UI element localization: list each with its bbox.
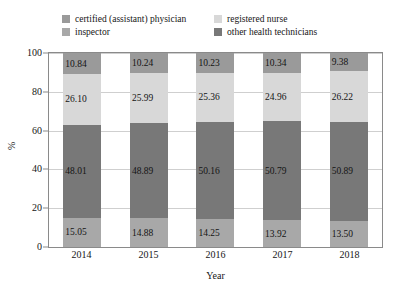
bar-segment-value-label: 10.84 (63, 59, 86, 69)
bar-slot: 13.5050.8926.229.38 (315, 53, 382, 247)
x-axis-title: Year (48, 270, 383, 281)
legend-swatch-icon (214, 15, 222, 23)
x-tick-label: 2017 (249, 249, 316, 261)
bar-slot: 14.2550.1625.3610.23 (182, 53, 249, 247)
x-tick-label: 2016 (182, 249, 249, 261)
bar-segment[interactable]: 15.05 (63, 218, 101, 247)
bar-segment[interactable]: 10.24 (130, 53, 168, 73)
y-tick-label: 40 (32, 164, 42, 174)
bar-segment-value-label: 26.10 (63, 94, 86, 104)
x-axis: 20142015201620172018 (48, 249, 383, 261)
legend-item-label: other health technicians (227, 27, 317, 37)
bar-segment[interactable]: 13.50 (330, 221, 368, 247)
bar-segment[interactable]: 50.16 (196, 122, 234, 219)
y-tick-label: 0 (37, 242, 42, 252)
x-tick-label: 2014 (48, 249, 115, 261)
legend-item-label: inspector (75, 27, 110, 37)
chart-legend: certified (assistant) physician register… (62, 12, 362, 38)
bar-segment-value-label: 48.01 (63, 166, 86, 176)
bar-slot: 13.9250.7924.9610.34 (249, 53, 316, 247)
bar-segment-value-label: 10.24 (130, 58, 153, 68)
legend-swatch-icon (214, 28, 222, 36)
y-tick-label: 60 (32, 126, 42, 136)
bar-segment-value-label: 15.05 (63, 227, 86, 237)
bar-segment[interactable]: 48.01 (63, 125, 101, 218)
bar-segment-value-label: 14.25 (196, 228, 219, 238)
bar-segment[interactable]: 10.23 (196, 53, 234, 73)
bar-segment[interactable]: 14.25 (196, 219, 234, 247)
bar-segment[interactable]: 50.79 (263, 121, 301, 220)
legend-item-certified-assistant-physician: certified (assistant) physician (62, 14, 214, 24)
bar-segment-value-label: 13.50 (330, 229, 353, 239)
bar-segment-value-label: 9.38 (330, 57, 349, 67)
stacked-bar[interactable]: 14.2550.1625.3610.23 (196, 53, 234, 247)
y-axis: 020406080100 (0, 52, 48, 248)
stacked-bar[interactable]: 14.8848.8925.9910.24 (130, 53, 168, 247)
bar-segment-value-label: 10.23 (196, 58, 219, 68)
y-axis-title: % (6, 142, 17, 150)
bar-segment-value-label: 14.88 (130, 228, 153, 238)
bar-segment[interactable]: 25.99 (130, 73, 168, 123)
bar-segment-value-label: 50.79 (263, 166, 286, 176)
bar-segment[interactable]: 13.92 (263, 220, 301, 247)
bar-segment-value-label: 25.36 (196, 92, 219, 102)
bar-segment-value-label: 50.16 (196, 166, 219, 176)
legend-item-other-health-technicians: other health technicians (214, 27, 362, 37)
bar-segment-value-label: 50.89 (330, 166, 353, 176)
bar-segment[interactable]: 24.96 (263, 73, 301, 121)
bar-slot: 15.0548.0126.1010.84 (49, 53, 116, 247)
plot-area: 15.0548.0126.1010.8414.8848.8925.9910.24… (48, 52, 383, 248)
y-tick-label: 20 (32, 203, 42, 213)
legend-item-label: registered nurse (227, 14, 287, 24)
bar-segment-value-label: 48.89 (130, 166, 153, 176)
bar-segment[interactable]: 26.22 (330, 71, 368, 122)
bar-segment-value-label: 24.96 (263, 92, 286, 102)
legend-item-registered-nurse: registered nurse (214, 14, 362, 24)
stacked-bar[interactable]: 13.5050.8926.229.38 (330, 53, 368, 247)
stacked-bar[interactable]: 13.9250.7924.9610.34 (263, 53, 301, 247)
bar-segment[interactable]: 9.38 (330, 53, 368, 71)
bar-slot: 14.8848.8925.9910.24 (116, 53, 183, 247)
stacked-bar[interactable]: 15.0548.0126.1010.84 (63, 53, 101, 247)
bar-segment[interactable]: 10.34 (263, 53, 301, 73)
bar-segment-value-label: 26.22 (330, 92, 353, 102)
bar-group: 15.0548.0126.1010.8414.8848.8925.9910.24… (49, 53, 382, 247)
bar-segment[interactable]: 48.89 (130, 123, 168, 218)
bar-segment[interactable]: 50.89 (330, 122, 368, 221)
bar-segment[interactable]: 14.88 (130, 218, 168, 247)
bar-segment[interactable]: 26.10 (63, 74, 101, 125)
bar-segment[interactable]: 10.84 (63, 53, 101, 74)
legend-swatch-icon (62, 15, 70, 23)
x-tick-label: 2015 (115, 249, 182, 261)
legend-item-inspector: inspector (62, 27, 214, 37)
stacked-bar-chart: certified (assistant) physician register… (0, 0, 395, 295)
bar-segment-value-label: 10.34 (263, 58, 286, 68)
legend-item-label: certified (assistant) physician (75, 14, 186, 24)
x-tick-label: 2018 (316, 249, 383, 261)
bar-segment[interactable]: 25.36 (196, 73, 234, 122)
y-tick-label: 100 (27, 48, 42, 58)
legend-swatch-icon (62, 28, 70, 36)
bar-segment-value-label: 13.92 (263, 229, 286, 239)
bar-segment-value-label: 25.99 (130, 93, 153, 103)
y-tick-label: 80 (32, 87, 42, 97)
